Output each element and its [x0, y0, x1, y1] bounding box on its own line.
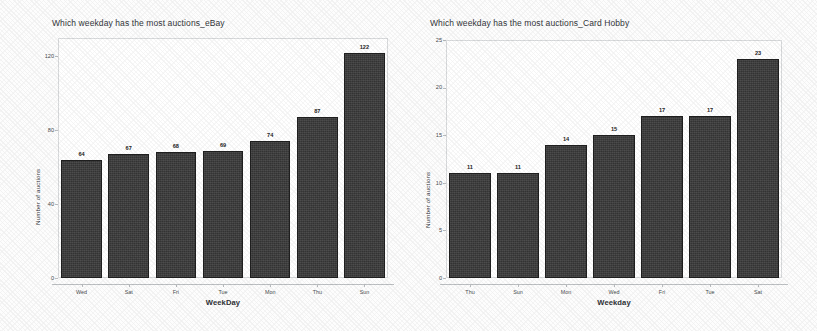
- x-axis-label: Weekday: [446, 298, 782, 307]
- bar-value-label: 11: [504, 164, 532, 170]
- x-tick-mark: [710, 284, 711, 287]
- bar-value-label: 11: [456, 164, 484, 170]
- bar-thu: [297, 117, 338, 278]
- bar-wed: [61, 160, 102, 278]
- bar-value-label: 64: [68, 151, 96, 157]
- x-tick-mark: [176, 284, 177, 287]
- y-tick-label: 10: [424, 180, 442, 186]
- chart-title: Which weekday has the most auctions_Card…: [430, 18, 629, 28]
- x-tick-mark: [518, 284, 519, 287]
- y-tick-mark: [443, 230, 446, 231]
- x-tick-label-wed: Wed: [600, 289, 628, 295]
- bar-value-label: 74: [256, 132, 284, 138]
- y-tick-mark: [55, 56, 58, 57]
- y-tick-label: 120: [36, 53, 54, 59]
- bar-value-label: 122: [350, 44, 378, 50]
- bar-sat: [108, 154, 149, 278]
- x-tick-mark: [662, 284, 663, 287]
- x-tick-label-fri: Fri: [648, 289, 676, 295]
- x-tick-mark: [614, 284, 615, 287]
- x-tick-label-thu: Thu: [303, 289, 331, 295]
- bar-value-label: 15: [600, 126, 628, 132]
- y-tick-mark: [443, 183, 446, 184]
- bar-value-label: 67: [115, 145, 143, 151]
- x-tick-mark: [758, 284, 759, 287]
- bar-wed: [593, 135, 635, 278]
- y-tick-mark: [55, 204, 58, 205]
- x-tick-label-sat: Sat: [115, 289, 143, 295]
- y-tick-mark: [55, 130, 58, 131]
- y-tick-mark: [443, 40, 446, 41]
- x-tick-mark: [317, 284, 318, 287]
- bar-value-label: 23: [744, 50, 772, 56]
- bar-thu: [449, 173, 491, 278]
- bar-value-label: 17: [696, 107, 724, 113]
- x-tick-mark: [364, 284, 365, 287]
- y-tick-label: 25: [424, 37, 442, 43]
- chart-panel-ebay: Which weekday has the most auctions_eBay…: [0, 0, 408, 331]
- x-tick-label-tue: Tue: [696, 289, 724, 295]
- x-axis-label: WeekDay: [58, 298, 388, 307]
- x-tick-label-tue: Tue: [209, 289, 237, 295]
- x-tick-label-sun: Sun: [350, 289, 378, 295]
- bar-fri: [641, 116, 683, 278]
- y-tick-label: 20: [424, 84, 442, 90]
- y-tick-label: 40: [36, 201, 54, 207]
- chart-panel-card-hobby: Which weekday has the most auctions_Card…: [408, 0, 816, 331]
- x-tick-mark: [470, 284, 471, 287]
- y-tick-mark: [443, 278, 446, 279]
- bar-value-label: 17: [648, 107, 676, 113]
- bar-sun: [344, 53, 385, 278]
- y-tick-label: 0: [36, 275, 54, 281]
- y-tick-label: 5: [424, 227, 442, 233]
- bar-value-label: 14: [552, 136, 580, 142]
- x-tick-mark: [129, 284, 130, 287]
- bar-mon: [545, 145, 587, 278]
- bar-value-label: 87: [303, 108, 331, 114]
- bar-tue: [203, 151, 244, 278]
- x-tick-mark: [270, 284, 271, 287]
- bar-fri: [156, 152, 197, 278]
- x-tick-mark: [82, 284, 83, 287]
- y-tick-mark: [443, 88, 446, 89]
- bar-mon: [250, 141, 291, 278]
- x-tick-label-mon: Mon: [256, 289, 284, 295]
- bar-value-label: 68: [162, 143, 190, 149]
- x-tick-label-wed: Wed: [68, 289, 96, 295]
- y-tick-label: 80: [36, 127, 54, 133]
- bar-value-label: 69: [209, 142, 237, 148]
- figure-sheet: Which weekday has the most auctions_eBay…: [0, 0, 817, 331]
- x-tick-mark: [566, 284, 567, 287]
- x-tick-label-sun: Sun: [504, 289, 532, 295]
- x-tick-label-fri: Fri: [162, 289, 190, 295]
- bar-tue: [689, 116, 731, 278]
- y-tick-label: 15: [424, 132, 442, 138]
- y-tick-label: 0: [424, 275, 442, 281]
- y-tick-mark: [55, 278, 58, 279]
- x-tick-mark: [223, 284, 224, 287]
- y-tick-mark: [443, 135, 446, 136]
- chart-title: Which weekday has the most auctions_eBay: [52, 18, 225, 28]
- bar-sat: [737, 59, 779, 278]
- bar-sun: [497, 173, 539, 278]
- x-tick-label-mon: Mon: [552, 289, 580, 295]
- x-tick-label-thu: Thu: [456, 289, 484, 295]
- x-tick-label-sat: Sat: [744, 289, 772, 295]
- y-axis-label: Number of auctions: [34, 169, 41, 225]
